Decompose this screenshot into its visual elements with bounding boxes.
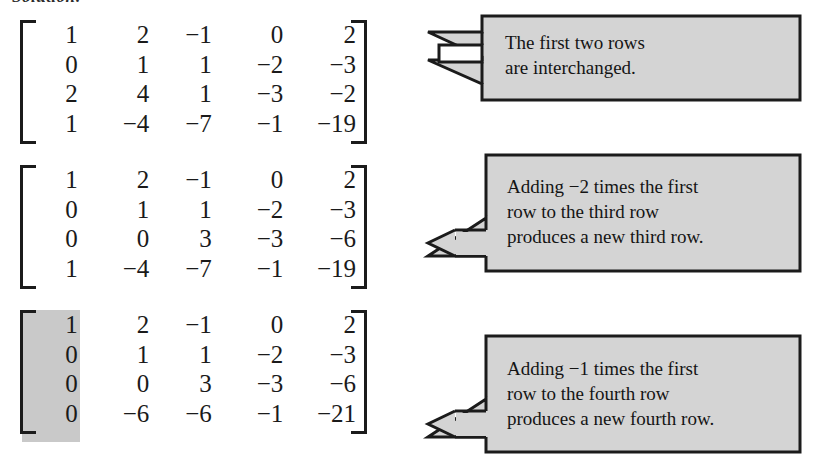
heading-sliver: Solution:: [12, 0, 82, 7]
callout-interchange-text: The first two rows are interchanged.: [505, 30, 645, 80]
callout-fourth-row: Adding −1 times the first row to the fou…: [425, 300, 805, 455]
interchange-slot: [439, 45, 482, 62]
matrix-row: 0 0 3 −3 −6: [26, 369, 358, 399]
matrix-cell: 1: [80, 50, 151, 80]
matrix-cell: −7: [151, 254, 213, 284]
matrix-cell: 1: [151, 50, 213, 80]
matrix-cell: 1: [151, 340, 213, 370]
matrix-row: 1 −4 −7 −1 −19: [26, 254, 358, 284]
matrix-row: 2 4 1 −3 −2: [26, 79, 358, 109]
matrix-cell: 0: [214, 20, 285, 50]
matrix-cell: −1: [151, 310, 213, 340]
matrix-cell: −6: [285, 224, 358, 254]
matrix-cell: −2: [214, 195, 285, 225]
callout-third-row: Adding −2 times the first row to the thi…: [425, 152, 805, 274]
matrix-cell: −6: [151, 399, 213, 429]
matrix-row: 1 2 −1 0 2: [26, 20, 358, 50]
matrix-cell: −1: [151, 165, 213, 195]
matrix-cell: −6: [285, 369, 358, 399]
matrix-cell: 2: [80, 165, 151, 195]
matrix-cell: −3: [214, 79, 285, 109]
matrix-cell: −3: [285, 50, 358, 80]
matrix-cell: −1: [214, 254, 285, 284]
callout-third-row-text: Adding −2 times the first row to the thi…: [507, 174, 704, 249]
matrix-cell: 3: [151, 369, 213, 399]
matrix-bracket-right: [351, 165, 367, 289]
matrix-cell: −21: [285, 399, 358, 429]
matrix-cell: −3: [285, 340, 358, 370]
matrix-cell: 0: [214, 310, 285, 340]
matrix-cell: −2: [214, 50, 285, 80]
matrix-bracket-left: [20, 310, 36, 434]
matrix-row: 0 −6 −6 −1 −21: [26, 399, 358, 429]
matrix-cell: −4: [80, 109, 151, 139]
matrix-cell: −1: [214, 399, 285, 429]
matrix-bracket-left: [20, 20, 36, 144]
matrix-cell: 4: [80, 79, 151, 109]
matrix-cell: −1: [151, 20, 213, 50]
matrix-cell: 2: [285, 165, 358, 195]
matrix-cell: 0: [80, 369, 151, 399]
figure-root: Solution: 1 2 −1 0 2 0 1 1 −2 −3 2 4 1: [0, 0, 813, 462]
matrix-step-2: 1 2 −1 0 2 0 1 1 −2 −3 0 0 3 −3 −6 1: [12, 165, 372, 283]
matrix-cell: −19: [285, 254, 358, 284]
matrix-cell: 0: [214, 165, 285, 195]
matrix-cell: −3: [285, 195, 358, 225]
matrix-cell: −7: [151, 109, 213, 139]
matrix-cell: 2: [285, 20, 358, 50]
matrix-row: 0 1 1 −2 −3: [26, 50, 358, 80]
matrix-row: 1 2 −1 0 2: [26, 310, 358, 340]
matrix-grid: 1 2 −1 0 2 0 1 1 −2 −3 2 4 1 −3 −2 1: [26, 20, 358, 138]
matrix-row: 0 0 3 −3 −6: [26, 224, 358, 254]
matrix-step-3: 1 2 −1 0 2 0 1 1 −2 −3 0 0 3 −3 −6 0: [12, 310, 372, 428]
matrix-cell: −3: [214, 369, 285, 399]
matrix-row: 1 2 −1 0 2: [26, 165, 358, 195]
matrix-cell: 1: [151, 79, 213, 109]
callout-interchange: The first two rows are interchanged.: [425, 10, 805, 105]
matrix-cell: −4: [80, 254, 151, 284]
matrix-bracket-left: [20, 165, 36, 289]
callout-fourth-row-text: Adding −1 times the first row to the fou…: [507, 356, 714, 431]
matrix-step-1: 1 2 −1 0 2 0 1 1 −2 −3 2 4 1 −3 −2 1: [12, 20, 372, 138]
matrix-cell: −2: [214, 340, 285, 370]
matrix-cell: −3: [214, 224, 285, 254]
matrix-cell: −19: [285, 109, 358, 139]
matrix-grid: 1 2 −1 0 2 0 1 1 −2 −3 0 0 3 −3 −6 1: [26, 165, 358, 283]
matrix-cell: 3: [151, 224, 213, 254]
matrix-cell: 1: [80, 195, 151, 225]
matrix-cell: 2: [80, 310, 151, 340]
matrix-cell: 1: [151, 195, 213, 225]
matrix-cell: −1: [214, 109, 285, 139]
matrix-cell: 0: [80, 224, 151, 254]
matrix-cell: −6: [80, 399, 151, 429]
matrix-row: 0 1 1 −2 −3: [26, 340, 358, 370]
matrix-bracket-right: [351, 310, 367, 434]
matrix-row: 1 −4 −7 −1 −19: [26, 109, 358, 139]
matrix-grid: 1 2 −1 0 2 0 1 1 −2 −3 0 0 3 −3 −6 0: [26, 310, 358, 428]
matrix-cell: 1: [80, 340, 151, 370]
matrix-cell: 2: [80, 20, 151, 50]
matrix-row: 0 1 1 −2 −3: [26, 195, 358, 225]
matrix-cell: 2: [285, 310, 358, 340]
matrix-bracket-right: [351, 20, 367, 144]
matrix-cell: −2: [285, 79, 358, 109]
